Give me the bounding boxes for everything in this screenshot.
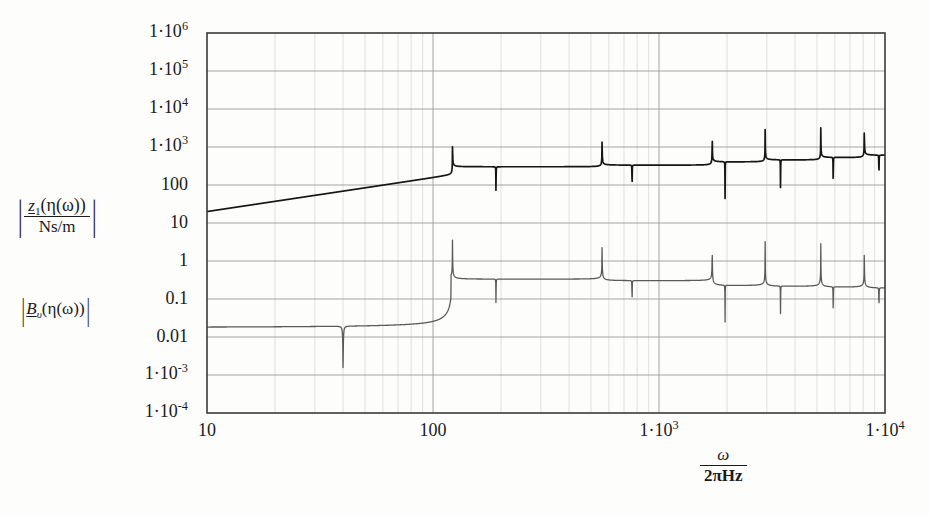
plot-svg — [0, 0, 930, 516]
curve-bfactor — [207, 240, 885, 367]
figure-container: 1·106 1·105 1·104 1·103 100 10 1 0.1 0.0… — [0, 0, 930, 516]
grid-major-lines — [207, 33, 885, 413]
curve-impedance — [207, 128, 885, 212]
